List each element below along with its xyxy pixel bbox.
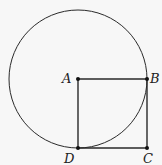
label-d: D bbox=[63, 151, 75, 165]
geometry-diagram: A B C D bbox=[0, 0, 162, 165]
point-d-dot bbox=[76, 146, 80, 150]
point-a-dot bbox=[76, 77, 80, 81]
square-abcd bbox=[78, 79, 147, 148]
point-c-dot bbox=[145, 146, 149, 150]
label-a: A bbox=[61, 71, 71, 86]
diagram-canvas: A B C D bbox=[0, 0, 162, 165]
label-b: B bbox=[149, 71, 160, 86]
label-c: C bbox=[143, 151, 153, 165]
point-b-dot bbox=[145, 77, 149, 81]
